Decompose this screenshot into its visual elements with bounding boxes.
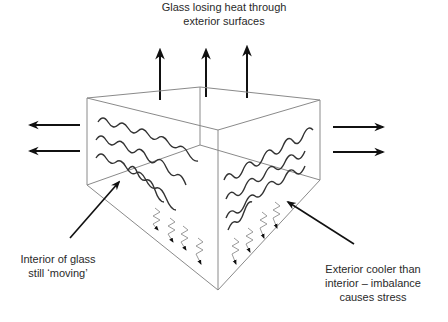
exterior-annotation-line-1: Exterior cooler than (312, 262, 434, 276)
exterior-callout-arrow-icon (288, 202, 354, 244)
up-arrows (160, 47, 247, 100)
callout-arrows (70, 182, 354, 244)
interior-annotation: Interior of glass still ‘moving’ (2, 252, 114, 280)
interior-annotation-line-1: Interior of glass (2, 252, 114, 266)
right-face-zigzags (232, 202, 280, 264)
interior-annotation-line-2: still ‘moving’ (2, 266, 114, 280)
left-face-zigzags (153, 208, 203, 264)
exterior-annotation: Exterior cooler than interior – imbalanc… (312, 262, 434, 304)
exterior-annotation-line-3: causes stress (312, 290, 434, 304)
side-arrows (30, 125, 383, 152)
right-face-waves (224, 128, 313, 230)
glass-cube-outline (87, 87, 320, 290)
exterior-annotation-line-2: interior – imbalance (312, 276, 434, 290)
